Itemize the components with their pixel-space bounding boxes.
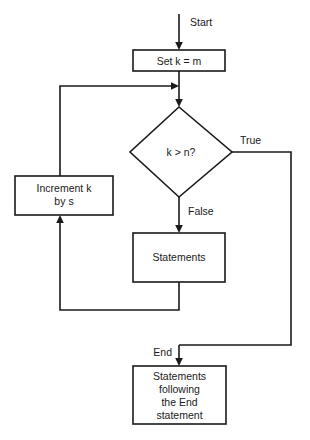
edge-label-true: True [240, 134, 261, 146]
increment-label-line2: by s [54, 195, 73, 207]
init-label-eq: = [181, 54, 193, 66]
increment-label-by: by [54, 195, 68, 207]
start-arrow-head [175, 42, 183, 50]
after-label-line4: statement [156, 409, 202, 421]
flowchart-canvas: Set k = m k > n? Increment k by s Statem… [0, 0, 310, 440]
edge-end-to-after [175, 345, 183, 366]
node-decision[interactable]: k > n? [130, 107, 232, 197]
edge-label-start: Start [190, 16, 212, 28]
node-body[interactable]: Statements [133, 233, 225, 282]
end-to-after-arrow-head [175, 358, 183, 366]
init-label-m: m [193, 54, 202, 66]
edge-start-to-init [175, 14, 183, 50]
body-label: Statements [152, 251, 205, 263]
loopback-arrow-head [171, 82, 179, 90]
node-after[interactable]: Statements following the End statement [133, 366, 226, 424]
init-label: Set k = m [157, 54, 202, 66]
increment-label-s: s [68, 195, 73, 207]
after-label-line1: Statements [153, 370, 206, 382]
decision-label-gt: > [172, 145, 184, 157]
after-label-line3: the End [161, 396, 197, 408]
decision-label-q: ? [190, 145, 196, 157]
increment-label-line1: Increment k [37, 182, 93, 194]
init-label-set: Set [157, 54, 176, 66]
init-to-decision-arrow-head [175, 99, 183, 107]
increment-label-k: k [86, 182, 92, 194]
decision-label: k > n? [167, 145, 196, 157]
increment-label-word: Increment [37, 182, 87, 194]
edge-label-end: End [153, 346, 172, 358]
node-init[interactable]: Set k = m [133, 50, 225, 71]
edge-label-false: False [188, 205, 214, 217]
false-branch-arrow-head [175, 225, 183, 233]
node-increment[interactable]: Increment k by s [15, 176, 113, 215]
edge-init-to-decision [175, 71, 183, 107]
flowchart-diagram: Set k = m k > n? Increment k by s Statem… [0, 0, 310, 440]
body-loopback-arrow-head [56, 215, 64, 223]
after-label-line2: following [159, 383, 200, 395]
edge-decision-false-to-body [175, 197, 183, 233]
